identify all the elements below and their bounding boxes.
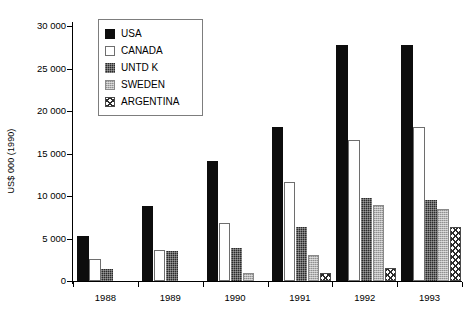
y-tick-label: 30 000 — [37, 21, 66, 30]
y-axis-title-text: US$ 000 (1990) — [6, 96, 16, 226]
bar-usa-1989 — [142, 206, 154, 281]
y-tick-label: 0 — [61, 276, 66, 285]
legend-swatch-icon — [105, 46, 115, 56]
x-tick-label: 1990 — [205, 292, 265, 303]
bar-untd-k-1993 — [425, 200, 437, 281]
x-tick-mark — [73, 282, 74, 287]
x-tick-mark — [397, 282, 398, 287]
x-tick-label: 1992 — [335, 292, 395, 303]
x-axis-line — [72, 281, 462, 282]
x-tick-mark — [332, 282, 333, 287]
bar-sweden-1992 — [373, 205, 385, 282]
legend-item-sweden[interactable]: SWEDEN — [105, 76, 196, 93]
bar-canada-1993 — [413, 127, 425, 281]
bar-untd-k-1990 — [231, 248, 243, 281]
bar-argentina-1991 — [320, 273, 332, 282]
x-tick-mark — [268, 282, 269, 287]
y-tick-label: 25 000 — [37, 64, 66, 73]
y-tick-mark — [67, 154, 73, 155]
y-tick-label: 15 000 — [37, 149, 66, 158]
y-tick-mark — [67, 239, 73, 240]
legend-swatch-icon — [105, 80, 115, 90]
bar-untd-k-1988 — [101, 269, 113, 281]
legend-item-usa[interactable]: USA — [105, 25, 196, 42]
bar-usa-1988 — [77, 236, 89, 281]
y-tick-label: 10 000 — [37, 191, 66, 200]
bar-canada-1992 — [348, 140, 360, 281]
x-tick-mark — [138, 282, 139, 287]
legend-item-label: CANADA — [121, 46, 163, 56]
bar-canada-1988 — [89, 259, 101, 281]
y-tick-mark — [67, 111, 73, 112]
bar-usa-1991 — [272, 127, 284, 281]
x-tick-label: 1989 — [140, 292, 200, 303]
bar-chart: US$ 000 (1990) 05 00010 00015 00020 0002… — [0, 0, 468, 320]
bar-canada-1991 — [284, 182, 296, 281]
legend-item-label: USA — [121, 29, 142, 39]
bar-sweden-1990 — [243, 273, 255, 281]
bar-untd-k-1989 — [166, 251, 178, 281]
x-tick-mark — [462, 282, 463, 287]
bar-sweden-1991 — [308, 255, 320, 281]
bar-canada-1989 — [154, 250, 166, 281]
y-tick-mark — [67, 26, 73, 27]
bar-untd-k-1991 — [296, 227, 308, 281]
x-tick-label: 1993 — [400, 292, 460, 303]
legend-swatch-icon — [105, 97, 115, 107]
y-axis-title: US$ 000 (1990) — [6, 0, 16, 96]
y-tick-mark — [67, 69, 73, 70]
legend-swatch-icon — [105, 63, 115, 73]
y-tick-label: 20 000 — [37, 106, 66, 115]
x-tick-label: 1988 — [75, 292, 135, 303]
bar-usa-1992 — [336, 45, 348, 281]
bar-sweden-1993 — [437, 209, 449, 281]
legend-item-label: UNTD K — [121, 63, 158, 73]
legend-item-label: ARGENTINA — [121, 97, 179, 107]
bar-argentina-1992 — [385, 268, 397, 281]
y-tick-mark — [67, 196, 73, 197]
bar-usa-1993 — [401, 45, 413, 281]
bar-untd-k-1992 — [361, 198, 373, 281]
chart-legend: USACANADAUNTD KSWEDENARGENTINA — [98, 19, 203, 116]
legend-item-untd-k[interactable]: UNTD K — [105, 59, 196, 76]
x-tick-mark — [203, 282, 204, 287]
bar-usa-1990 — [207, 161, 219, 281]
legend-item-label: SWEDEN — [121, 80, 165, 90]
legend-swatch-icon — [105, 29, 115, 39]
x-tick-label: 1991 — [270, 292, 330, 303]
legend-item-canada[interactable]: CANADA — [105, 42, 196, 59]
legend-item-argentina[interactable]: ARGENTINA — [105, 93, 196, 110]
bar-canada-1990 — [219, 223, 231, 281]
bar-argentina-1993 — [450, 227, 462, 281]
y-tick-label: 5 000 — [42, 234, 66, 243]
